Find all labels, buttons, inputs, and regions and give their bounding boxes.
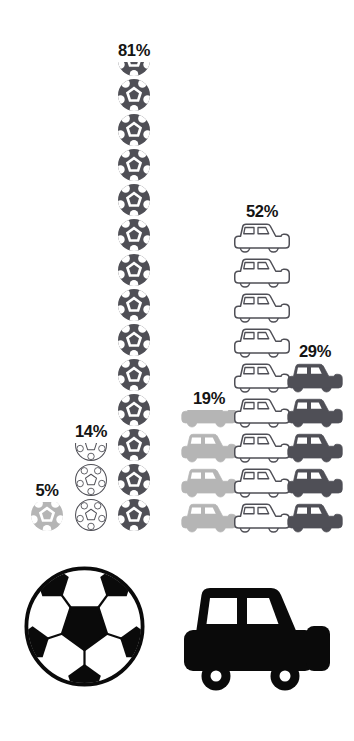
soccer-ball-icon [74,463,108,497]
column-value-label: 5% [15,480,79,500]
column-value-label: 81% [102,40,166,60]
soccer-ball-legend-icon [21,563,148,690]
car-icon [234,328,290,358]
car-icon [287,363,343,393]
car-icon [287,398,343,428]
car-icon [181,468,237,498]
soccer-ball-icon [117,253,151,287]
soccer-ball-icon [117,393,151,427]
car-icon [181,433,237,463]
car-legend-icon [182,585,332,691]
car-icon [234,433,290,463]
car-icon [234,398,290,428]
column-value-label: 19% [177,388,241,408]
column-value-label: 52% [230,201,294,221]
soccer-ball-icon [117,428,151,462]
soccer-ball-icon [117,463,151,497]
soccer-ball-icon [117,498,151,532]
car-partial-icon [181,410,237,428]
car-icon [287,468,343,498]
soccer-ball-icon [117,323,151,357]
car-icon [234,258,290,288]
soccer-ball-icon [117,113,151,147]
soccer-ball-partial-icon [30,502,64,532]
soccer-ball-icon [117,288,151,322]
car-icon [287,433,343,463]
soccer-ball-icon [117,78,151,112]
car-icon [234,223,290,253]
column-value-label: 14% [59,421,123,441]
car-icon [234,503,290,533]
soccer-ball-partial-icon [117,62,151,77]
soccer-ball-partial-icon [74,443,108,462]
car-icon [287,503,343,533]
pictogram-chart: 5% 14% [0,0,354,741]
soccer-ball-icon [117,148,151,182]
car-icon [181,503,237,533]
soccer-ball-icon [117,218,151,252]
soccer-ball-icon [117,358,151,392]
column-value-label: 29% [283,341,347,361]
car-icon [234,293,290,323]
car-icon [234,468,290,498]
soccer-ball-icon [117,183,151,217]
car-icon [234,363,290,393]
soccer-ball-icon [74,498,108,532]
